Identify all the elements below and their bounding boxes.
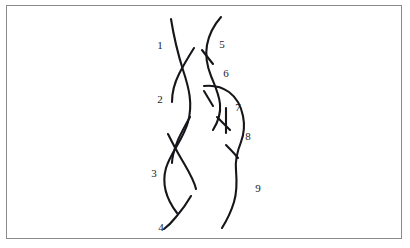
arc-label-4: 4 (158, 222, 164, 233)
knot-diagram-graphic (0, 0, 410, 248)
arc-label-6: 6 (223, 68, 229, 79)
strand-right-main (206, 17, 221, 130)
figure-canvas: 1 2 3 4 5 6 7 8 9 (0, 0, 410, 248)
arc-label-9: 9 (255, 183, 261, 194)
strand-right-tick-seven (217, 117, 230, 130)
arc-label-3: 3 (151, 168, 157, 179)
left-strand-group (164, 19, 196, 229)
strand-right-tick-eight (226, 145, 238, 158)
strand-left-over-upper (172, 48, 194, 102)
strand-left-main (164, 19, 190, 213)
arc-label-7: 7 (235, 102, 241, 113)
arc-label-2: 2 (157, 94, 163, 105)
arc-label-8: 8 (245, 131, 251, 142)
strand-right-tick-mid (204, 91, 213, 106)
arc-label-5: 5 (219, 39, 225, 50)
arc-label-1: 1 (157, 40, 163, 51)
